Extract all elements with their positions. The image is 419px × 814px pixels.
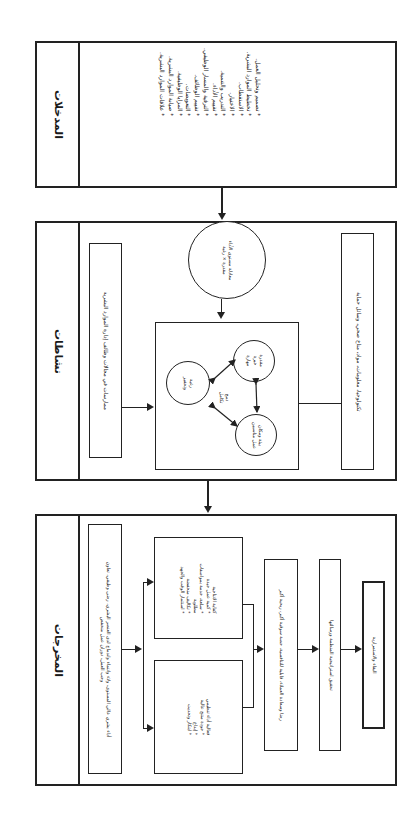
strategy-text-wrap: تحقيق استراتيجية المنظمة ورسالتها <box>319 559 341 751</box>
inputs-item: الاختيار. <box>227 48 236 116</box>
bracket-right <box>253 604 254 708</box>
effectiveness-item: * ابتكار وتحديث <box>187 704 192 735</box>
arrow-head-right <box>312 645 319 653</box>
practices-text: ممارسات في مجالات وظائف إدارة الموارد ال… <box>102 291 110 409</box>
inputs-item: الترقية والمسار الوظيفي. <box>201 48 210 116</box>
inputs-item: التدريب والتنمية. <box>219 48 228 116</box>
arrow-head-right <box>355 645 362 653</box>
resources-text: تكنولوجيا، معلومات، مواد، مناخ صحي، وسائ… <box>354 292 362 412</box>
arrow-activities-to-outputs <box>207 481 209 507</box>
efficiency-item: * سلعة، خدمة بمواصفات <box>200 563 205 613</box>
bracket-left <box>143 582 144 729</box>
inputs-item: المزايا الوظيفية. <box>175 48 184 116</box>
effectiveness-text-wrap: فعالية أداء تنظيمي * جودة منتج عالية * إ… <box>154 660 243 774</box>
outputs-title: المخرجات <box>50 623 65 676</box>
connector-resources-inner <box>299 403 341 404</box>
equation-line2: مقدرة × رغبة <box>222 246 227 274</box>
strategy-text: تحقيق استراتيجية المنظمة ورسالتها <box>327 620 333 691</box>
effectiveness-title: فعالية أداء تنظيمي <box>206 699 211 736</box>
arrow-head-right <box>257 645 264 653</box>
connector-practices-inner <box>122 407 147 408</box>
human-performance-line1: أداء بشري عالي المستوى، ولاء وانتماء وان… <box>106 561 111 737</box>
inputs-item: تقييم الأداء. <box>210 48 219 116</box>
arrow-head-right <box>147 578 154 586</box>
arrow-head-right <box>135 645 142 653</box>
effectiveness-item: * إبداع <box>194 722 199 735</box>
customer-satisfaction-text: رضا وسعادة العملاء، قابلية للتنافسية، حص… <box>278 589 284 720</box>
efficiency-title: كفاية الانتاجية <box>213 586 218 613</box>
outputs-header-divider <box>78 514 80 786</box>
arrow-head-right <box>147 724 154 732</box>
integration-line1: دمج <box>225 393 230 401</box>
arrow-head-down <box>218 213 226 220</box>
arrow-head-down <box>217 312 225 319</box>
efficiency-item: * استثمار الوقت والجهد <box>181 566 186 613</box>
arrow-head-down <box>204 506 212 513</box>
integration-line2: تكامل <box>219 391 224 403</box>
human-performance-line2: وحب العمل، دوران عمل منخفض <box>100 616 105 681</box>
activities-title: نشاطات <box>50 329 65 374</box>
inputs-item: تخطيط الموارد البشرية. <box>245 48 254 116</box>
survival-text: البقاء والاستمرارية <box>370 637 376 674</box>
activities-header-divider <box>78 221 80 481</box>
inputs-title: المدخلات <box>50 90 65 139</box>
inputs-item: علاقات الموارد البشرية. <box>158 48 167 116</box>
inputs-item: التعويضات. <box>184 48 193 116</box>
inputs-item: تصميم وتحليل العمل. <box>253 48 262 116</box>
inputs-header: المدخلات <box>37 43 78 186</box>
resources-text-wrap: تكنولوجيا، معلومات، مواد، مناخ صحي، وسائ… <box>341 233 374 470</box>
equation-line1: معادلة مستوى الأداء <box>228 240 233 280</box>
equation-text-wrap: معادلة مستوى الأداء مقدرة × رغبة <box>188 221 266 299</box>
inputs-item: تقييم الوظائف. <box>193 48 202 116</box>
connector-satisfaction-strategy <box>298 649 313 650</box>
arrow-inputs-to-activities <box>221 188 223 214</box>
connector-strategy-survival <box>341 649 356 650</box>
efficiency-item: * كمية عمل جيدة <box>206 578 211 613</box>
inputs-header-divider <box>78 41 80 188</box>
efficiency-item: * تكاليف منخفضة <box>187 578 192 613</box>
customer-satisfaction-text-wrap: رضا وسعادة العملاء، قابلية للتنافسية، حص… <box>264 559 298 751</box>
survival-text-wrap: البقاء والاستمرارية <box>362 581 385 729</box>
inputs-item: صيانة الموارد البشرية. <box>166 48 175 116</box>
bracket-from-efficiency <box>243 604 253 605</box>
efficiency-item: مطلوبة <box>194 599 199 613</box>
outputs-header: المخرجات <box>37 516 78 784</box>
inputs-item: الاستقطاب. <box>236 48 245 116</box>
arrow-head-right <box>147 403 154 411</box>
human-performance-text-wrap: أداء بشري عالي المستوى، ولاء وانتماء وان… <box>88 524 122 774</box>
bracket-from-effectiveness <box>243 707 253 708</box>
efficiency-text-wrap: كفاية الانتاجية * كمية عمل جيدة * سلعة، … <box>154 537 243 639</box>
integration-label: دمج تكامل <box>213 382 235 412</box>
activities-header: نشاطات <box>37 223 78 479</box>
practices-text-wrap: ممارسات في مجالات وظائف إدارة الموارد ال… <box>89 243 122 458</box>
effectiveness-item: * جودة منتج عالية <box>200 700 205 735</box>
